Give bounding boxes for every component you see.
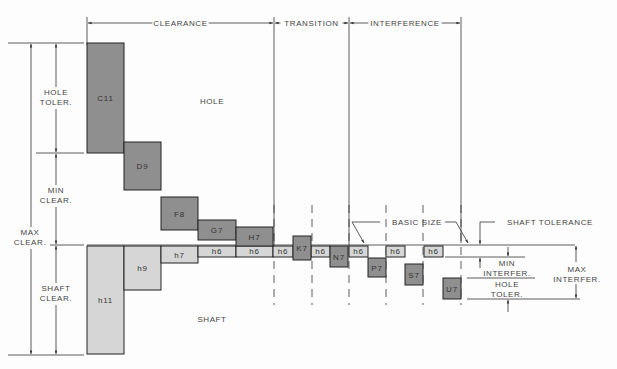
hole-toler-right-label: HOLE xyxy=(495,280,519,289)
hole-zone-label: K7 xyxy=(296,244,307,253)
shaft-clear-label: CLEAR. xyxy=(40,294,73,303)
hole-toler-label: HOLE xyxy=(44,88,68,97)
max-clear-label: MAX xyxy=(20,228,39,237)
hole-toler-label: TOLER. xyxy=(40,98,72,107)
shaft-zone-label: h6 xyxy=(390,247,401,256)
max-clear-label: CLEAR. xyxy=(14,238,47,247)
hole-region-label: HOLE xyxy=(200,97,224,106)
zone-label-transition: TRANSITION xyxy=(284,19,338,28)
zone-label-clearance: CLEARANCE xyxy=(153,19,207,28)
hole-zone-label: S7 xyxy=(408,271,419,280)
zone-label-interference: INTERFERENCE xyxy=(370,19,439,28)
shaft-zone-label: h6 xyxy=(428,247,439,256)
min-clear-label: CLEAR. xyxy=(40,196,73,205)
fits-diagram: h11h9h7h6h6h6h6h6h6h6C11D9F8G7H7K7N7P7S7… xyxy=(0,0,617,369)
hole-zone-label: D9 xyxy=(137,162,149,171)
shaft-clear-label: SHAFT xyxy=(41,284,70,293)
max-interfer-label: MAX xyxy=(567,265,586,274)
shaft-zone-label: h11 xyxy=(98,296,113,305)
shaft-zone-label: h6 xyxy=(249,247,260,256)
shaft-zone-label: h9 xyxy=(137,264,148,273)
shaft-zone-label: h6 xyxy=(315,247,326,256)
max-interfer-label: INTERFER. xyxy=(553,275,601,284)
hole-zone-label: C11 xyxy=(97,94,113,103)
hole-zone-label: H7 xyxy=(249,233,261,242)
basic-size-leader xyxy=(352,222,364,243)
shaft-region-label: SHAFT xyxy=(197,315,226,324)
basic-size-label: BASIC SIZE xyxy=(392,218,442,227)
shaft-zone-label: h6 xyxy=(278,247,289,256)
hole-zone-label: U7 xyxy=(446,285,458,294)
shaft-zone-label: h7 xyxy=(174,251,185,260)
shaft-zone-label: h6 xyxy=(212,247,223,256)
hole-zone-label: P7 xyxy=(371,264,382,273)
hole-zone-label: G7 xyxy=(211,226,223,235)
shaft-tolerance-label: SHAFT TOLERANCE xyxy=(507,218,593,227)
min-interfer-label: INTERFER. xyxy=(483,269,531,278)
hole-zone-label: N7 xyxy=(333,253,345,262)
fits-diagram-svg: h11h9h7h6h6h6h6h6h6h6C11D9F8G7H7K7N7P7S7… xyxy=(0,0,617,369)
basic-size-leader xyxy=(456,222,468,243)
min-interfer-label: MIN xyxy=(499,259,515,268)
min-clear-label: MIN xyxy=(48,186,64,195)
shaft-zone-label: h6 xyxy=(353,247,364,256)
hole-zone-label: F8 xyxy=(174,210,185,219)
hole-toler-right-label: TOLER. xyxy=(491,290,523,299)
